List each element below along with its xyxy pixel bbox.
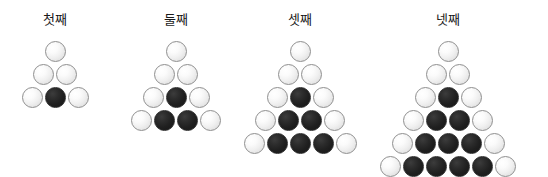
black-stone xyxy=(426,156,447,177)
stone-row xyxy=(426,64,470,86)
white-stone xyxy=(56,64,77,85)
stone-row xyxy=(403,110,493,132)
white-stone xyxy=(143,87,164,108)
black-stone xyxy=(461,133,482,154)
white-stone xyxy=(438,41,459,62)
stone-row xyxy=(438,41,459,63)
white-stone xyxy=(461,87,482,108)
white-stone xyxy=(495,156,516,177)
white-stone xyxy=(267,87,288,108)
figure-label-4: 넷째 xyxy=(436,12,460,27)
white-stone xyxy=(313,87,334,108)
white-stone xyxy=(484,133,505,154)
white-stone xyxy=(33,64,54,85)
stone-row xyxy=(255,110,345,132)
figure-label-2: 둘째 xyxy=(164,12,188,27)
white-stone xyxy=(68,87,89,108)
white-stone xyxy=(131,110,152,131)
figure-label-1: 첫째 xyxy=(43,12,67,27)
stone-row xyxy=(131,110,221,132)
white-stone xyxy=(403,110,424,131)
white-stone xyxy=(255,110,276,131)
stone-row xyxy=(33,64,77,86)
black-stone xyxy=(278,110,299,131)
white-stone xyxy=(324,110,345,131)
stone-row xyxy=(244,133,357,155)
black-stone xyxy=(45,87,66,108)
black-stone xyxy=(438,87,459,108)
stone-row xyxy=(380,156,516,177)
white-stone xyxy=(426,64,447,85)
white-stone xyxy=(380,156,401,177)
white-stone xyxy=(166,41,187,62)
white-stone xyxy=(301,64,322,85)
stone-row xyxy=(290,41,311,63)
black-stone xyxy=(449,156,470,177)
white-stone xyxy=(200,110,221,131)
white-stone xyxy=(154,64,175,85)
white-stone xyxy=(278,64,299,85)
white-stone xyxy=(392,133,413,154)
white-stone xyxy=(189,87,210,108)
black-stone xyxy=(301,110,322,131)
black-stone xyxy=(177,110,198,131)
black-stone xyxy=(438,133,459,154)
black-stone xyxy=(426,110,447,131)
black-stone xyxy=(290,133,311,154)
stone-row xyxy=(154,64,198,86)
black-stone xyxy=(415,133,436,154)
stone-row xyxy=(45,41,66,63)
black-stone xyxy=(449,110,470,131)
black-stone xyxy=(166,87,187,108)
stone-row xyxy=(22,87,89,109)
stone-row xyxy=(415,87,482,109)
white-stone xyxy=(22,87,43,108)
stone-row xyxy=(143,87,210,109)
black-stone xyxy=(267,133,288,154)
white-stone xyxy=(177,64,198,85)
diagram-canvas: 첫째둘째셋째넷째 xyxy=(0,0,548,177)
white-stone xyxy=(290,41,311,62)
white-stone xyxy=(415,87,436,108)
white-stone xyxy=(45,41,66,62)
figure-label-3: 셋째 xyxy=(288,12,312,27)
stone-row xyxy=(166,41,187,63)
white-stone xyxy=(449,64,470,85)
white-stone xyxy=(244,133,265,154)
black-stone xyxy=(313,133,334,154)
black-stone xyxy=(472,156,493,177)
stone-row xyxy=(278,64,322,86)
black-stone xyxy=(403,156,424,177)
stone-row xyxy=(392,133,505,155)
white-stone xyxy=(336,133,357,154)
white-stone xyxy=(472,110,493,131)
black-stone xyxy=(154,110,175,131)
black-stone xyxy=(290,87,311,108)
stone-row xyxy=(267,87,334,109)
